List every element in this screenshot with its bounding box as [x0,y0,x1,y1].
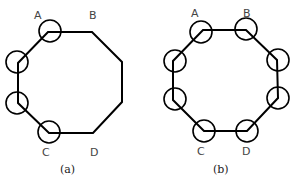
figure-caption-b: (b) [213,163,229,176]
node-circle-b-left-top [164,50,186,72]
vertex-label-a-D: D [90,146,98,159]
vertex-label-b-A: A [191,7,199,20]
vertex-label-b-D: D [242,145,250,158]
octagon-a [18,32,122,133]
node-circle-b-left-bottom [164,88,186,110]
vertex-label-a-A: A [34,9,42,22]
vertex-label-a-B: B [89,9,97,22]
diagram-canvas: A B C D (a) A B C D (b) [0,0,295,182]
figure-b: A B C D (b) [164,7,289,176]
vertex-label-a-C: C [42,146,50,159]
figure-caption-a: (a) [60,163,75,176]
vertex-label-b-C: C [197,145,205,158]
vertex-label-b-B: B [243,7,251,20]
octagon-b [173,30,278,131]
figure-a: A B C D (a) [6,9,122,176]
